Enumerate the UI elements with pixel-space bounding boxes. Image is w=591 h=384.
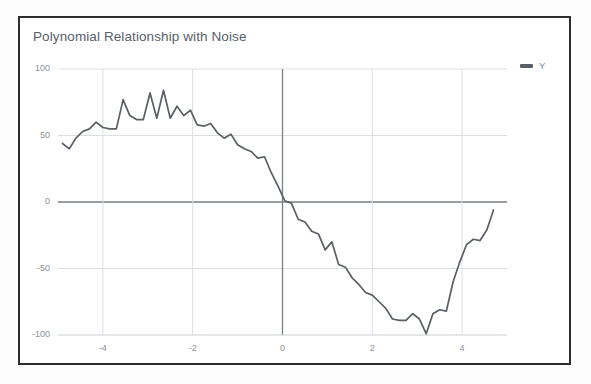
x-axis-tick-label: -4 xyxy=(83,343,123,353)
screenshot-root: Polynomial Relationship with Noise Y 100… xyxy=(0,0,591,384)
y-axis-tick-label: 0 xyxy=(20,196,50,206)
plot-area xyxy=(20,18,573,367)
chart-frame: Polynomial Relationship with Noise Y 100… xyxy=(18,16,571,365)
series-line-y xyxy=(62,90,493,333)
y-axis-tick-label: -100 xyxy=(20,329,50,339)
x-axis-tick-label: -2 xyxy=(173,343,213,353)
y-axis-tick-label: 50 xyxy=(20,130,50,140)
y-axis-tick-label: -50 xyxy=(20,263,50,273)
y-axis-tick-label: 100 xyxy=(20,63,50,73)
x-axis-tick-label: 2 xyxy=(352,343,392,353)
x-axis-tick-label: 4 xyxy=(442,343,482,353)
x-axis-tick-label: 0 xyxy=(263,343,303,353)
